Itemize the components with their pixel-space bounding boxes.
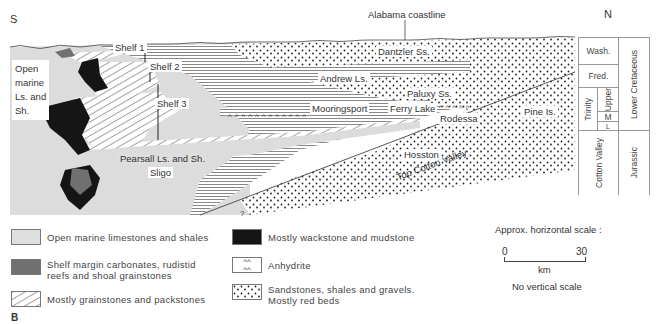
dark-grey-swatch	[11, 259, 41, 275]
shelf-2-label: Shelf 2	[148, 61, 182, 72]
scale-end: 30	[576, 246, 587, 257]
scale-title: Approx. horizontal scale :	[495, 224, 602, 235]
figure-label: B	[11, 312, 18, 323]
alabama-coastline-label: Alabama coastline	[368, 9, 446, 20]
scale-unit: km	[538, 264, 551, 275]
light-grey-swatch	[11, 229, 41, 245]
column-trinity: Trinity	[578, 87, 598, 131]
pearsall-label: Pearsall Ls. and Sh.	[118, 153, 207, 164]
rodessa-label: Rodessa	[438, 113, 480, 124]
hatch-swatch	[11, 291, 41, 307]
legend-anhydrite: ^^^^ Anhydrite	[232, 257, 311, 273]
svg-text:^^^^^^^^^^^^: ^^^^^^^^^^^^	[228, 112, 309, 121]
column-lower-cretaceous: Lower Cretaceous	[618, 37, 650, 131]
column-trinity-upper: Upper	[597, 87, 619, 112]
south-label: S	[10, 14, 17, 25]
question-mark: ?	[240, 208, 244, 219]
legend-wackstone: Mostly wackstone and mudstone	[232, 229, 415, 245]
column-fredericksburg: Fred.	[578, 64, 619, 88]
shelf-3-label: Shelf 3	[155, 98, 189, 109]
sligo-label: Sligo	[148, 167, 173, 178]
vertical-scale-note: No vertical scale	[512, 281, 582, 292]
mooringsport-label: Mooringsport	[310, 103, 369, 114]
ferry-lake-label: Ferry Lake	[388, 103, 437, 114]
column-washita: Wash.	[578, 37, 619, 65]
column-jurassic: Jurassic	[618, 130, 650, 195]
andrew-label: Andrew Ls.	[318, 73, 370, 84]
dots-swatch	[232, 284, 262, 300]
dantzler-label: Dantzler Ss.	[376, 46, 432, 57]
stratigraphic-column: Wash. Fred. Trinity Upper M L Cotton Val…	[578, 37, 650, 197]
shelf-1-label: Shelf 1	[113, 42, 147, 53]
caret-swatch: ^^^^	[232, 257, 262, 273]
paluxy-label: Paluxy Ss.	[405, 88, 454, 99]
black-swatch	[232, 229, 262, 245]
legend-shelf-margin: Shelf margin carbonates, rudistid reefs …	[11, 259, 196, 281]
legend-open-marine: Open marine limestones and shales	[11, 229, 208, 245]
open-marine-label: Open marine Ls. and Sh.	[12, 60, 49, 120]
column-cotton-valley: Cotton Valley	[578, 130, 619, 195]
scale-start: 0	[502, 246, 508, 257]
scale-bar	[504, 257, 586, 262]
legend-grainstones: Mostly grainstones and packstones	[11, 291, 205, 307]
pine-island-label: Pine Is.	[522, 106, 558, 117]
legend-sandstones: Sandstones, shales and gravels. Mostly r…	[232, 284, 415, 306]
north-label: N	[604, 9, 612, 20]
